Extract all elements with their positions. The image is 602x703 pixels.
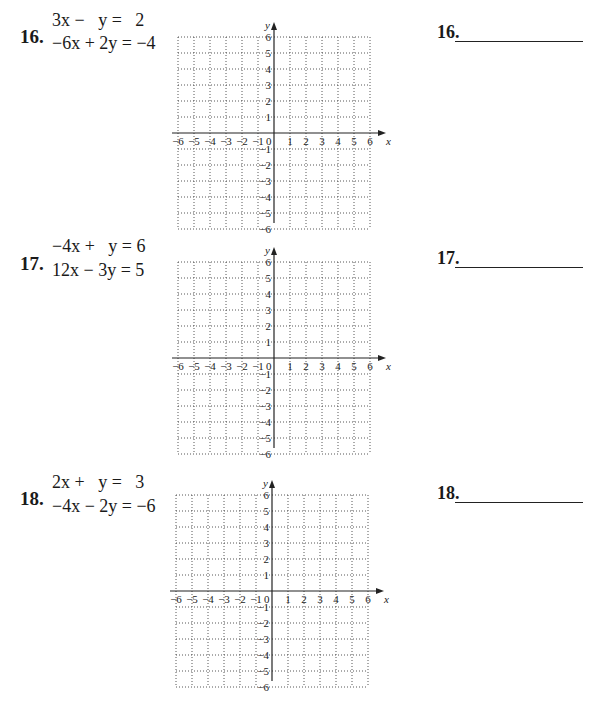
x-axis-label: x xyxy=(385,360,391,372)
x-tick-label: −2 xyxy=(236,135,248,147)
x-tick-label: 5 xyxy=(349,593,355,605)
problem-number: 17. xyxy=(20,253,44,275)
x-tick-label: −6 xyxy=(170,593,182,605)
y-tick-label: 3 xyxy=(266,304,272,316)
y-tick-label: −6 xyxy=(259,223,271,235)
y-tick-label: −2 xyxy=(259,159,271,171)
x-tick-label: 5 xyxy=(351,360,357,372)
answer-blank[interactable] xyxy=(455,502,583,503)
x-axis-arrow-icon xyxy=(378,355,386,361)
x-tick-label: −6 xyxy=(172,360,184,372)
y-tick-label: −6 xyxy=(257,681,269,693)
y-tick-label: 4 xyxy=(266,288,272,300)
answer-label: 18. xyxy=(437,483,460,504)
x-tick-label: −6 xyxy=(172,135,184,147)
x-tick-label: 4 xyxy=(335,360,341,372)
equation-2: −6x + 2y = −4 xyxy=(52,33,156,54)
y-tick-label: 1 xyxy=(264,569,270,581)
x-tick-label: −3 xyxy=(220,135,232,147)
y-tick-label: −1 xyxy=(259,143,271,155)
y-axis-label: y xyxy=(262,477,268,489)
x-tick-label: 6 xyxy=(365,593,371,605)
x-tick-label: 6 xyxy=(367,135,373,147)
answer-label: 17. xyxy=(437,248,460,269)
y-tick-label: 4 xyxy=(266,63,272,75)
y-tick-label: 3 xyxy=(266,79,272,91)
y-tick-label: 2 xyxy=(264,553,270,565)
y-tick-label: −5 xyxy=(259,207,271,219)
x-axis-arrow-icon xyxy=(378,130,386,136)
y-axis-arrow-icon xyxy=(269,480,275,488)
x-tick-label: 3 xyxy=(319,360,325,372)
y-tick-label: −3 xyxy=(259,400,271,412)
equation-2: 12x − 3y = 5 xyxy=(52,260,144,281)
x-tick-label: −5 xyxy=(186,593,198,605)
y-axis-label: y xyxy=(264,244,270,256)
answer-blank[interactable] xyxy=(455,267,583,268)
y-tick-label: −5 xyxy=(257,665,269,677)
equation-1: 3x − y = 2 xyxy=(52,10,144,31)
equation-2: −4x − 2y = −6 xyxy=(52,496,156,517)
x-tick-label: 3 xyxy=(319,135,325,147)
y-tick-label: −6 xyxy=(259,448,271,460)
x-axis-label: x xyxy=(383,593,389,605)
x-axis-label: x xyxy=(385,135,391,147)
equation-1: 2x + y = 3 xyxy=(52,472,144,493)
x-tick-label: 2 xyxy=(303,360,309,372)
x-tick-label: −3 xyxy=(220,360,232,372)
x-tick-label: −3 xyxy=(218,593,230,605)
answer-blank[interactable] xyxy=(455,41,583,42)
y-tick-label: 2 xyxy=(266,320,272,332)
y-tick-label: −3 xyxy=(257,633,269,645)
y-tick-label: 5 xyxy=(266,272,272,284)
y-tick-label: 1 xyxy=(266,111,272,123)
x-tick-label: 4 xyxy=(335,135,341,147)
y-tick-label: 6 xyxy=(264,489,270,501)
x-tick-label: −2 xyxy=(234,593,246,605)
x-tick-label: 1 xyxy=(285,593,291,605)
coordinate-grid: xy0−6−5−4−3−2−1123456123456−1−2−3−4−5−6 xyxy=(165,18,395,238)
x-axis-arrow-icon xyxy=(376,588,384,594)
x-tick-label: −2 xyxy=(236,360,248,372)
answer-label: 16. xyxy=(437,22,460,43)
x-tick-label: −4 xyxy=(204,360,216,372)
y-tick-label: 5 xyxy=(264,505,270,517)
y-tick-label: −4 xyxy=(259,191,271,203)
y-tick-label: −3 xyxy=(259,175,271,187)
y-tick-label: −1 xyxy=(259,368,271,380)
x-tick-label: −4 xyxy=(202,593,214,605)
y-tick-label: 5 xyxy=(266,47,272,59)
y-tick-label: −2 xyxy=(257,617,269,629)
problem-number: 18. xyxy=(20,488,44,510)
x-tick-label: 1 xyxy=(287,135,293,147)
coordinate-grid: xy0−6−5−4−3−2−1123456123456−1−2−3−4−5−6 xyxy=(163,476,393,696)
y-tick-label: −1 xyxy=(257,601,269,613)
y-tick-label: 4 xyxy=(264,521,270,533)
y-tick-label: 1 xyxy=(266,336,272,348)
x-tick-label: 5 xyxy=(351,135,357,147)
problem-number: 16. xyxy=(20,26,44,48)
y-axis-arrow-icon xyxy=(271,247,277,255)
equation-1: −4x + y = 6 xyxy=(52,236,145,257)
x-tick-label: 1 xyxy=(287,360,293,372)
y-tick-label: 6 xyxy=(266,31,272,43)
y-tick-label: −4 xyxy=(257,649,269,661)
y-tick-label: 2 xyxy=(266,95,272,107)
x-tick-label: 6 xyxy=(367,360,373,372)
y-tick-label: −2 xyxy=(259,384,271,396)
coordinate-grid: xy0−6−5−4−3−2−1123456123456−1−2−3−4−5−6 xyxy=(165,243,395,463)
y-tick-label: 3 xyxy=(264,537,270,549)
x-tick-label: −4 xyxy=(204,135,216,147)
y-tick-label: 6 xyxy=(266,256,272,268)
x-tick-label: −5 xyxy=(188,135,200,147)
y-axis-arrow-icon xyxy=(271,22,277,30)
x-tick-label: −5 xyxy=(188,360,200,372)
x-tick-label: 2 xyxy=(303,135,309,147)
x-tick-label: 4 xyxy=(333,593,339,605)
x-tick-label: 2 xyxy=(301,593,307,605)
y-tick-label: −4 xyxy=(259,416,271,428)
y-tick-label: −5 xyxy=(259,432,271,444)
x-tick-label: 3 xyxy=(317,593,323,605)
y-axis-label: y xyxy=(264,19,270,31)
